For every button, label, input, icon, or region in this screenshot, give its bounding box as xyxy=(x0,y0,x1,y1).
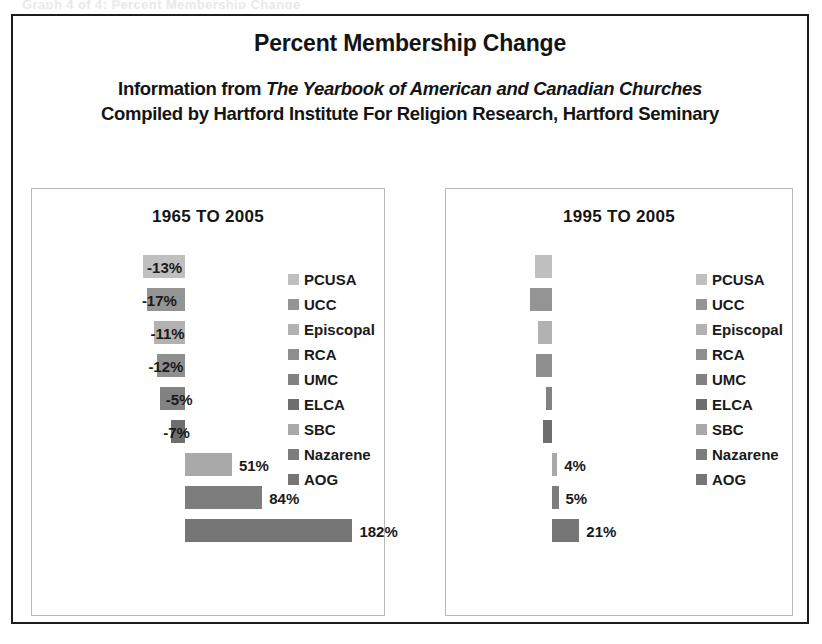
legend-label: SBC xyxy=(304,422,336,437)
source-line-1: Information from The Yearbook of America… xyxy=(13,78,807,100)
bar-umc xyxy=(546,387,553,410)
legend-label: UCC xyxy=(304,297,337,312)
legend-swatch-icon xyxy=(696,324,707,335)
legend-label: RCA xyxy=(304,347,337,362)
bar-nazarene xyxy=(185,486,262,509)
legend-item-elca: ELCA xyxy=(696,392,783,417)
chart-title-1995-2005: 1995 TO 2005 xyxy=(446,207,792,227)
bar-ucc xyxy=(530,288,552,311)
bar-aog xyxy=(185,519,352,542)
legend-item-ucc: UCC xyxy=(696,292,783,317)
bar-aog xyxy=(552,519,579,542)
legend-item-episcopal: Episcopal xyxy=(288,317,375,342)
legend-label: UMC xyxy=(712,372,746,387)
legend-label: Nazarene xyxy=(304,447,371,462)
legend-item-umc: UMC xyxy=(288,367,375,392)
legend-1995-2005: PCUSAUCCEpiscopalRCAUMCELCASBCNazareneAO… xyxy=(696,267,783,492)
bar-sbc xyxy=(552,453,557,476)
bar-value-label: -5% xyxy=(166,392,193,407)
legend-item-rca: RCA xyxy=(288,342,375,367)
legend-item-episcopal: Episcopal xyxy=(696,317,783,342)
legend-label: Nazarene xyxy=(712,447,779,462)
legend-label: PCUSA xyxy=(712,272,765,287)
bar-sbc xyxy=(185,453,232,476)
legend-swatch-icon xyxy=(288,374,299,385)
source-line-2: Compiled by Hartford Institute For Relig… xyxy=(13,103,807,125)
legend-label: PCUSA xyxy=(304,272,357,287)
legend-swatch-icon xyxy=(288,424,299,435)
legend-item-aog: AOG xyxy=(696,467,783,492)
bar-value-label: -11% xyxy=(151,326,185,341)
chart-frame: Percent Membership Change Information fr… xyxy=(11,14,809,624)
legend-item-aog: AOG xyxy=(288,467,375,492)
legend-label: Episcopal xyxy=(712,322,783,337)
legend-label: AOG xyxy=(304,472,338,487)
bar-pcusa xyxy=(535,255,552,278)
legend-item-ucc: UCC xyxy=(288,292,375,317)
legend-label: UMC xyxy=(304,372,338,387)
bar-rca xyxy=(536,354,552,377)
legend-swatch-icon xyxy=(288,349,299,360)
legend-item-sbc: SBC xyxy=(288,417,375,442)
legend-swatch-icon xyxy=(696,474,707,485)
legend-swatch-icon xyxy=(696,449,707,460)
bar-value-label: 5% xyxy=(566,491,588,506)
legend-swatch-icon xyxy=(696,424,707,435)
legend-swatch-icon xyxy=(288,474,299,485)
bar-value-label: -12% xyxy=(148,359,183,374)
bar-value-label: -17% xyxy=(142,293,177,308)
bar-value-label: 84% xyxy=(269,491,299,506)
legend-label: ELCA xyxy=(712,397,753,412)
bar-elca xyxy=(543,420,552,443)
bar-value-label: -7% xyxy=(163,425,190,440)
legend-label: RCA xyxy=(712,347,745,362)
header: Percent Membership Change Information fr… xyxy=(13,16,807,125)
chart-title-1965-2005: 1965 TO 2005 xyxy=(32,207,384,227)
clipped-top-text: Graph 4 of 4: Percent Membership Change xyxy=(0,0,822,9)
legend-1965-2005: PCUSAUCCEpiscopalRCAUMCELCASBCNazareneAO… xyxy=(288,267,375,492)
bar-value-label: 21% xyxy=(586,524,616,539)
legend-item-umc: UMC xyxy=(696,367,783,392)
legend-swatch-icon xyxy=(696,349,707,360)
bar-nazarene xyxy=(552,486,559,509)
legend-label: Episcopal xyxy=(304,322,375,337)
legend-item-rca: RCA xyxy=(696,342,783,367)
legend-item-pcusa: PCUSA xyxy=(288,267,375,292)
bar-value-label: 51% xyxy=(239,458,269,473)
bar-value-label: -13% xyxy=(147,260,182,275)
legend-item-nazarene: Nazarene xyxy=(288,442,375,467)
legend-swatch-icon xyxy=(696,274,707,285)
legend-item-pcusa: PCUSA xyxy=(696,267,783,292)
legend-swatch-icon xyxy=(696,299,707,310)
chart-panel-1995-2005: 1995 TO 2005 -13%-17%-11%-12%-5%-7%4%5%2… xyxy=(445,188,793,616)
source-book-title: The Yearbook of American and Canadian Ch… xyxy=(266,78,702,99)
legend-item-nazarene: Nazarene xyxy=(696,442,783,467)
legend-swatch-icon xyxy=(288,274,299,285)
chart-panel-1965-2005: 1965 TO 2005 -46%-41%-34%-30%-27%-15%51%… xyxy=(31,188,385,616)
legend-swatch-icon xyxy=(696,399,707,410)
legend-label: SBC xyxy=(712,422,744,437)
legend-swatch-icon xyxy=(288,399,299,410)
legend-swatch-icon xyxy=(696,374,707,385)
legend-item-elca: ELCA xyxy=(288,392,375,417)
bar-value-label: 182% xyxy=(359,524,397,539)
legend-label: UCC xyxy=(712,297,745,312)
page-title: Percent Membership Change xyxy=(13,30,807,57)
bar-value-label: 4% xyxy=(564,458,586,473)
legend-label: ELCA xyxy=(304,397,345,412)
source-prefix: Information from xyxy=(118,78,266,99)
legend-item-sbc: SBC xyxy=(696,417,783,442)
legend-swatch-icon xyxy=(288,324,299,335)
bar-episcopal xyxy=(538,321,552,344)
legend-swatch-icon xyxy=(288,449,299,460)
legend-label: AOG xyxy=(712,472,746,487)
legend-swatch-icon xyxy=(288,299,299,310)
